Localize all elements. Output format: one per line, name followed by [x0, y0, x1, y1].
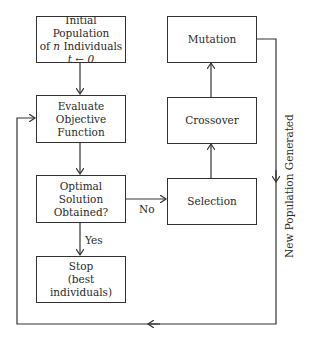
edge-label-no: No — [139, 203, 155, 215]
node-stop-line1: Stop — [69, 260, 93, 273]
node-selection-label: Selection — [187, 195, 237, 208]
node-evaluate-objective: Evaluate Objective Function — [36, 95, 126, 143]
edge-label-new-population: New Population Generated — [283, 114, 295, 258]
node-initial-population: Initial Population of n Individuals t ← … — [36, 16, 126, 63]
node-decision-line2: Obtained? — [54, 206, 109, 219]
node-crossover-label: Crossover — [185, 114, 239, 127]
node-initial-population-line1: Initial Population — [37, 14, 125, 40]
node-mutation: Mutation — [167, 16, 257, 63]
node-stop: Stop (best individuals) — [36, 256, 126, 303]
node-decision-line1: Optimal Solution — [37, 180, 125, 206]
node-initial-population-line3: t ← 0 — [68, 53, 94, 66]
node-selection: Selection — [167, 178, 257, 225]
node-evaluate-line1: Evaluate Objective — [37, 100, 125, 126]
node-mutation-label: Mutation — [188, 33, 237, 46]
node-optimal-decision: Optimal Solution Obtained? — [36, 175, 126, 223]
node-crossover: Crossover — [167, 97, 257, 144]
node-evaluate-line2: Function — [57, 126, 104, 139]
line2-prefix: of — [40, 40, 54, 52]
node-initial-population-line2: of n Individuals — [40, 40, 122, 53]
edge-label-yes: Yes — [85, 234, 103, 246]
line2-suffix: Individuals — [60, 40, 122, 52]
node-stop-line2: (best individuals) — [37, 273, 125, 299]
